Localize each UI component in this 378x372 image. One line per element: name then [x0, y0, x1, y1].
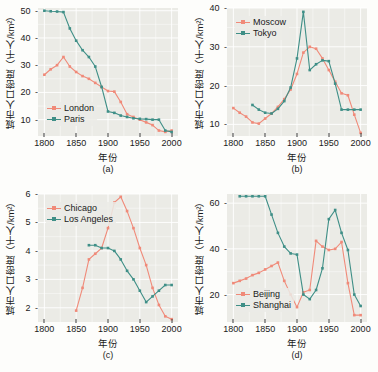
x-tick-mark: [171, 319, 172, 323]
legend-label: London: [64, 103, 94, 114]
x-tick-mark: [108, 319, 109, 323]
x-tick-label: 1850: [255, 138, 275, 148]
x-tick-label: 1850: [255, 324, 275, 334]
legend-item[interactable]: Moscow: [236, 17, 286, 28]
x-tick-mark: [108, 133, 109, 137]
legend-label: Chicago: [64, 203, 97, 214]
x-tick-mark: [139, 319, 140, 323]
plot-area: MoscowTokyo: [227, 8, 367, 136]
y-tick-label: 40 -: [20, 33, 38, 43]
x-tick-label: 1950: [130, 324, 150, 334]
subplot-caption: (c): [38, 350, 178, 360]
x-tick-label: 1850: [66, 324, 86, 334]
legend-item[interactable]: London: [47, 103, 94, 114]
y-tick-labels: 10 -20 -30 -40 -50 -: [14, 8, 38, 136]
x-tick-label: 1950: [130, 138, 150, 148]
legend-item[interactable]: Los Angeles: [47, 214, 113, 225]
legend-swatch-icon: [236, 301, 250, 311]
y-tick-labels: 20 -40 -60 -: [203, 194, 227, 322]
legend-swatch-icon: [236, 29, 250, 39]
y-tick-label: 40 -: [209, 244, 227, 254]
x-tick-mark: [76, 133, 77, 137]
subplot-caption: (b): [227, 164, 367, 174]
x-tick-label: 2000: [351, 324, 371, 334]
x-tick-label: 1950: [319, 324, 339, 334]
x-tick-mark: [44, 133, 45, 137]
x-tick-mark: [139, 133, 140, 137]
y-tick-label: 4 -: [25, 246, 38, 256]
y-tick-label: 30 -: [209, 42, 227, 52]
legend-label: Moscow: [253, 17, 286, 28]
x-tick-mark: [297, 133, 298, 137]
legend-item[interactable]: Shanghai: [236, 300, 291, 311]
legend-swatch-icon: [47, 215, 61, 225]
chart-panel-a: 城市人口密度（千人/km²） 10 -20 -30 -40 -50 - Lond…: [0, 0, 189, 186]
x-tick-mark: [360, 133, 361, 137]
x-tick-label: 1950: [319, 138, 339, 148]
x-tick-mark: [265, 319, 266, 323]
x-tick-mark: [233, 319, 234, 323]
legend[interactable]: ChicagoLos Angeles: [46, 202, 116, 226]
subplot-caption: (a): [38, 164, 178, 174]
legend-label: Tokyo: [253, 28, 277, 39]
legend-item[interactable]: Chicago: [47, 203, 113, 214]
x-tick-label: 1800: [223, 138, 243, 148]
x-tick-mark: [76, 319, 77, 323]
y-tick-label: 6 -: [25, 189, 38, 199]
x-tick-label: 2000: [162, 138, 182, 148]
plot-area: ChicagoLos Angeles: [38, 194, 178, 322]
y-tick-label: 10 -: [209, 119, 227, 129]
x-tick-label: 1800: [34, 324, 54, 334]
plot-area: LondonParis: [38, 8, 178, 136]
x-tick-mark: [297, 319, 298, 323]
x-tick-mark: [328, 133, 329, 137]
legend-label: Shanghai: [253, 300, 291, 311]
x-axis-title: 年份: [38, 336, 178, 350]
x-tick-label: 1800: [34, 138, 54, 148]
legend-item[interactable]: Tokyo: [236, 28, 286, 39]
legend-swatch-icon: [236, 290, 250, 300]
y-tick-label: 3 -: [25, 274, 38, 284]
figure-canvas: 城市人口密度（千人/km²） 10 -20 -30 -40 -50 - Lond…: [0, 0, 378, 372]
x-tick-label: 2000: [351, 138, 371, 148]
x-axis-title: 年份: [227, 336, 367, 350]
y-tick-label: 60 -: [209, 198, 227, 208]
y-tick-labels: 10 -20 -30 -40 -: [203, 8, 227, 136]
x-tick-mark: [171, 133, 172, 137]
x-tick-mark: [233, 133, 234, 137]
x-tick-label: 2000: [162, 324, 182, 334]
legend-swatch-icon: [47, 115, 61, 125]
x-tick-label: 1850: [66, 138, 86, 148]
y-tick-label: 50 -: [20, 6, 38, 16]
plot-area: BeijingShanghai: [227, 194, 367, 322]
chart-panel-d: 城市人口密度（千人/km²） 20 -40 -60 - BeijingShang…: [189, 186, 378, 372]
legend[interactable]: BeijingShanghai: [235, 288, 294, 312]
x-tick-label: 1900: [98, 138, 118, 148]
chart-panel-c: 城市人口密度（千人/km²） 2 -3 -4 -5 -6 - ChicagoLo…: [0, 186, 189, 372]
chart-panel-b: 城市人口密度（千人/km²） 10 -20 -30 -40 - MoscowTo…: [189, 0, 378, 186]
legend-swatch-icon: [236, 18, 250, 28]
legend[interactable]: LondonParis: [46, 102, 97, 126]
y-tick-label: 20 -: [209, 81, 227, 91]
legend-item[interactable]: Paris: [47, 114, 94, 125]
x-tick-label: 1900: [287, 138, 307, 148]
legend-swatch-icon: [47, 204, 61, 214]
x-axis-title: 年份: [38, 150, 178, 164]
x-tick-mark: [265, 133, 266, 137]
y-tick-label: 30 -: [20, 60, 38, 70]
x-tick-label: 1800: [223, 324, 243, 334]
x-tick-label: 1900: [98, 324, 118, 334]
y-tick-label: 40 -: [209, 3, 227, 13]
x-tick-mark: [360, 319, 361, 323]
legend-label: Beijing: [253, 289, 280, 300]
y-tick-label: 2 -: [25, 303, 38, 313]
x-tick-label: 1900: [287, 324, 307, 334]
legend-label: Los Angeles: [64, 214, 113, 225]
x-axis-title: 年份: [227, 150, 367, 164]
subplot-caption: (d): [227, 350, 367, 360]
legend-item[interactable]: Beijing: [236, 289, 291, 300]
legend[interactable]: MoscowTokyo: [235, 16, 289, 40]
legend-swatch-icon: [47, 104, 61, 114]
legend-label: Paris: [64, 114, 85, 125]
y-tick-label: 5 -: [25, 217, 38, 227]
